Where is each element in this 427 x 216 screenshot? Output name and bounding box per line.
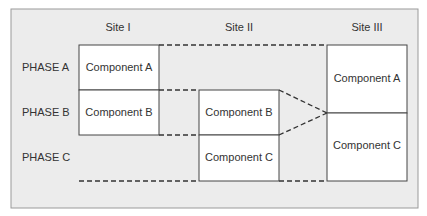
site-header-3: Site III: [351, 21, 382, 33]
phase-site-diagram: Site I Site II Site III PHASE A PHASE B …: [0, 0, 427, 216]
phase-label-a: PHASE A: [22, 61, 70, 73]
site2-component-b-label: Component B: [205, 106, 272, 118]
site2-column: Component B Component C: [199, 90, 279, 181]
site2-component-c-label: Component C: [205, 151, 273, 163]
phase-label-c: PHASE C: [22, 151, 70, 163]
site-header-2: Site II: [225, 21, 253, 33]
site3-component-c-label: Component C: [333, 139, 401, 151]
site-header-1: Site I: [105, 21, 130, 33]
site1-component-a-label: Component A: [86, 61, 153, 73]
site1-column: Component A Component B: [79, 45, 159, 135]
site1-component-b-label: Component B: [85, 106, 152, 118]
site3-component-a-label: Component A: [334, 72, 401, 84]
site3-column: Component A Component C: [327, 45, 407, 181]
phase-label-b: PHASE B: [22, 106, 70, 118]
